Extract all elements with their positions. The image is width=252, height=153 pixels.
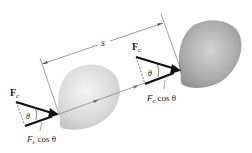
force-final: θ Fc Fc cos θ (132, 41, 181, 104)
component-label: Fc cos θ (146, 93, 176, 104)
angle-label: θ (26, 112, 30, 121)
dimension-arrow-icon (42, 61, 48, 64)
extension-line-start (40, 58, 59, 114)
force-label: Fc (132, 41, 142, 54)
dimension-line (110, 23, 163, 41)
displacement-label: s (101, 37, 105, 48)
force-initial: θ Fc Fc cos θ (10, 87, 59, 145)
body-final (179, 20, 241, 88)
dimension-arrow-icon (157, 23, 163, 26)
angle-label: θ (148, 69, 152, 78)
component-label: Fc cos θ (26, 134, 56, 145)
path-arrowhead-icon (133, 85, 139, 89)
body-initial (58, 64, 120, 129)
dimension-line (42, 45, 98, 64)
force-label: Fc (10, 87, 20, 100)
work-of-constant-force-diagram: s θ Fc Fc cos θ θ Fc Fc cos θ (0, 0, 252, 153)
extension-line-end (161, 14, 181, 70)
